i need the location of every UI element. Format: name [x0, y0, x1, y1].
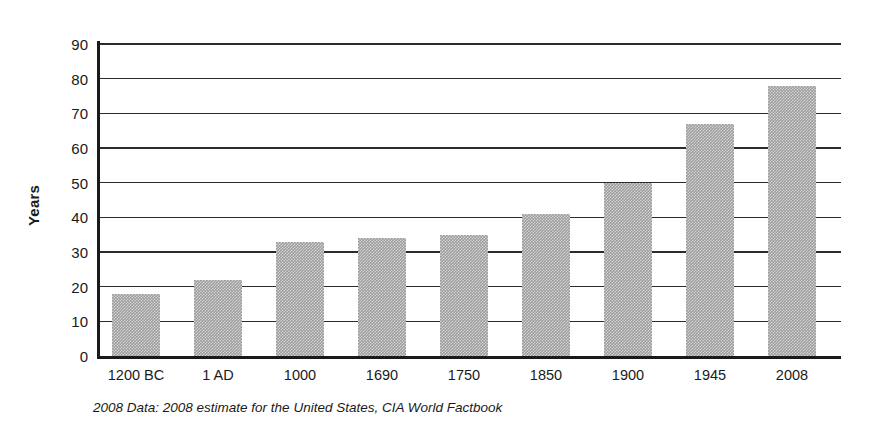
y-axis-tick-label: 80 [71, 70, 88, 87]
gridline [100, 43, 841, 45]
bar [440, 235, 488, 356]
bar [686, 124, 734, 356]
y-axis-tick-label: 30 [71, 244, 88, 261]
y-axis-line [97, 41, 100, 359]
bar [358, 238, 406, 356]
y-axis-tick-label: 70 [71, 105, 88, 122]
bar [768, 86, 816, 356]
bar-chart: Years 9080706050403020100 1200 BC1 AD100… [0, 0, 874, 446]
bar [522, 214, 570, 356]
y-axis-tick-label: 20 [71, 278, 88, 295]
gridline [100, 113, 841, 115]
y-axis-title-label: Years [26, 184, 43, 225]
y-axis-tick-label: 40 [71, 209, 88, 226]
y-axis-tick-label: 10 [71, 313, 88, 330]
x-axis-line [97, 356, 841, 359]
bar [112, 294, 160, 356]
y-axis-title: Years [14, 160, 54, 250]
y-axis-tick-label: 90 [71, 36, 88, 53]
bar [276, 242, 324, 356]
y-axis-tick-label: 60 [71, 140, 88, 157]
plot-area: 9080706050403020100 1200 BC1 AD100016901… [97, 41, 841, 359]
y-axis-tick-label: 0 [80, 348, 88, 365]
bar [194, 280, 242, 356]
x-axis-tick-label: 2008 [744, 367, 840, 383]
bar [604, 183, 652, 356]
footnote: 2008 Data: 2008 estimate for the United … [93, 400, 502, 415]
y-axis-tick-label: 50 [71, 174, 88, 191]
gridline [100, 78, 841, 80]
